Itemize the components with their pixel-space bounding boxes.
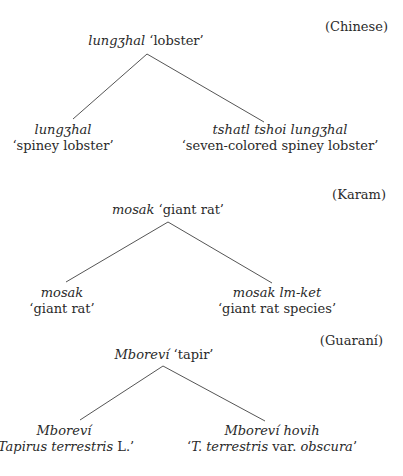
root-node-guarani: Mboreví ‘tapir’ <box>115 347 214 363</box>
left-node-chinese: lungʒhal ‘spiney lobster’ <box>12 122 113 154</box>
left-node-karam: mosak ‘giant rat’ <box>29 285 94 317</box>
root-gloss: ‘lobster’ <box>149 33 203 48</box>
right-gloss: ‘seven-colored spiney lobster’ <box>182 138 379 153</box>
right-gloss: ‘T. terrestris var. obscura’ <box>187 439 357 454</box>
branch-guarani-left <box>80 366 163 420</box>
branch-chinese-left <box>73 54 147 119</box>
left-term: Mboreví <box>37 423 92 438</box>
right-node-guarani: Mboreví hovih ‘T. terrestris var. obscur… <box>187 423 357 455</box>
language-label-guarani: (Guaraní) <box>320 333 383 349</box>
branch-guarani-right <box>163 366 265 421</box>
left-term: mosak <box>41 285 83 300</box>
root-node-karam: mosak ‘giant rat’ <box>112 202 224 218</box>
root-term: mosak <box>112 202 154 217</box>
branch-karam-right <box>168 222 272 283</box>
left-gloss: ‘giant rat’ <box>29 301 94 316</box>
right-node-karam: mosak lm-ket ‘giant rat species’ <box>218 285 336 317</box>
root-term: Mboreví <box>115 347 170 362</box>
root-term: lungʒhal <box>88 33 145 48</box>
left-node-guarani: Mboreví ‘Tapirus terrestris L.’ <box>0 423 134 455</box>
root-gloss: ‘tapir’ <box>174 347 214 362</box>
language-label-karam: (Karam) <box>332 187 386 203</box>
left-gloss: ‘spiney lobster’ <box>12 138 113 153</box>
language-label-chinese: (Chinese) <box>325 19 388 35</box>
branch-karam-left <box>66 222 168 282</box>
right-node-chinese: tshatl tshoi lungʒhal ‘seven-colored spi… <box>182 122 379 154</box>
right-term: mosak lm-ket <box>233 285 321 300</box>
root-node-chinese: lungʒhal ‘lobster’ <box>88 33 203 49</box>
right-term: tshatl tshoi lungʒhal <box>213 122 348 137</box>
right-term: Mboreví hovih <box>224 423 319 438</box>
left-gloss: ‘Tapirus terrestris L.’ <box>0 439 134 454</box>
tree-branches <box>0 0 403 476</box>
branch-chinese-right <box>147 54 264 122</box>
root-gloss: ‘giant rat’ <box>159 202 224 217</box>
left-term: lungʒhal <box>35 122 92 137</box>
right-gloss: ‘giant rat species’ <box>218 301 336 316</box>
